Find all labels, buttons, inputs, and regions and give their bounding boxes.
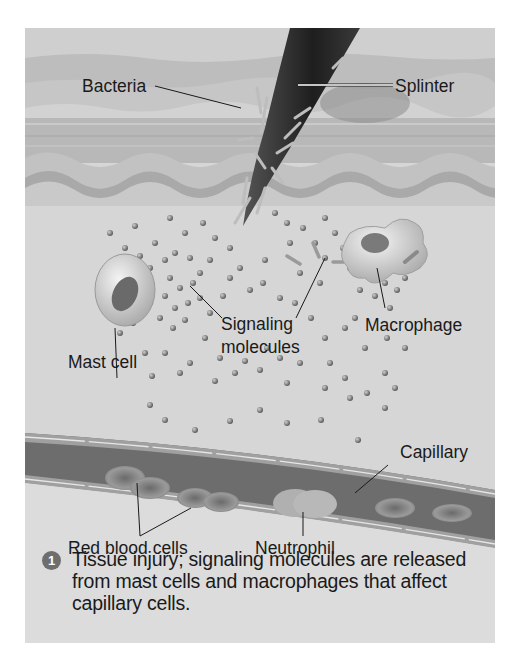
step-caption-text: Tissue injury; signaling molecules are r… xyxy=(72,548,466,614)
label-splinter: Splinter xyxy=(395,76,455,96)
label-macrophage: Macrophage xyxy=(365,315,462,335)
inflammation-diagram: Bacteria Splinter Signaling molecules Ma… xyxy=(25,28,495,643)
mast-cell-illustration xyxy=(95,254,155,326)
label-mast-cell: Mast cell xyxy=(68,352,137,372)
step-number-badge: 1 xyxy=(42,551,61,570)
label-signaling-1: Signaling xyxy=(221,314,293,334)
label-signaling-2: molecules xyxy=(221,337,300,357)
step-caption: 1 Tissue injury; signaling molecules are… xyxy=(72,548,492,614)
label-bacteria: Bacteria xyxy=(82,76,146,96)
label-capillary: Capillary xyxy=(400,442,468,462)
